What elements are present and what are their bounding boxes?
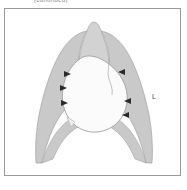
chest-radiograph-illustration [5,9,180,175]
side-marker-label-l: L [152,93,156,100]
figure-root: (continued) [0,0,187,190]
figure-caption-top: (continued) [34,0,154,3]
figure-frame: L [4,8,181,176]
